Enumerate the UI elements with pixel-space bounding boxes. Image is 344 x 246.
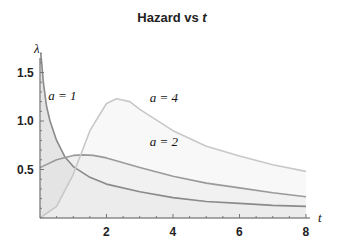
x-tick-label: 2 — [103, 225, 110, 239]
y-tick-label: 0.5 — [17, 163, 34, 177]
y-tick-label: 1.0 — [17, 114, 34, 128]
series-label: a = 4 — [150, 90, 179, 105]
y-axis-label: λ — [33, 41, 40, 56]
x-tick-label: 4 — [170, 225, 177, 239]
x-axis-label: t — [318, 210, 322, 225]
x-tick-label: 6 — [236, 225, 243, 239]
y-tick-label: 1.5 — [17, 66, 34, 80]
hazard-chart: 24680.51.01.5 λ t a = 1a = 2a = 4 — [0, 0, 344, 246]
x-tick-label: 8 — [303, 225, 310, 239]
series-label: a = 2 — [150, 134, 179, 149]
series-label: a = 1 — [48, 88, 76, 103]
